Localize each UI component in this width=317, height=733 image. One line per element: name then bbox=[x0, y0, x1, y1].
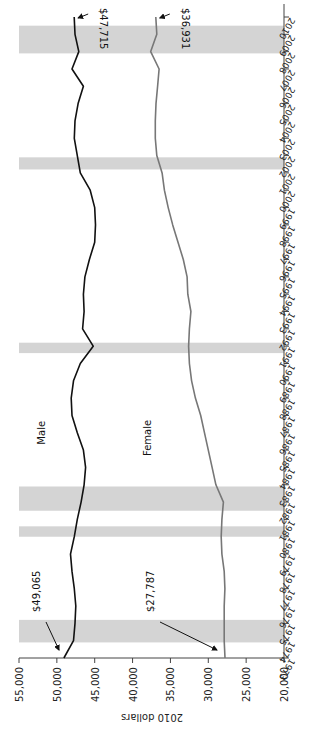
data-lines bbox=[64, 17, 225, 658]
recession-band bbox=[19, 486, 284, 510]
series-line-female bbox=[151, 17, 225, 658]
recession-band bbox=[19, 343, 284, 353]
value-tick-label: 35,000 bbox=[165, 667, 176, 702]
value-annotation: $27,787 bbox=[145, 571, 156, 612]
series-label: Female bbox=[143, 420, 154, 456]
annotation-arrow bbox=[160, 14, 170, 18]
y-axis-title: 2010 dollars bbox=[121, 712, 183, 723]
value-tick-label: 55,000 bbox=[14, 667, 25, 702]
value-annotation: $36,931 bbox=[180, 8, 191, 49]
recession-bands bbox=[19, 26, 284, 643]
income-line-chart: 20,00025,00030,00035,00040,00045,00050,0… bbox=[0, 0, 317, 733]
series-line-male bbox=[64, 17, 96, 658]
value-tick-label: 30,000 bbox=[203, 667, 214, 702]
value-annotation: $47,715 bbox=[98, 8, 109, 49]
value-tick-label: 45,000 bbox=[90, 667, 101, 702]
annotation-arrow bbox=[78, 14, 88, 18]
recession-band bbox=[19, 157, 284, 169]
value-annotation: $49,065 bbox=[31, 571, 42, 612]
recession-band bbox=[19, 620, 284, 643]
value-tick-label: 40,000 bbox=[128, 667, 139, 702]
recession-band bbox=[19, 526, 284, 536]
series-label: Male bbox=[37, 421, 48, 445]
value-tick-label: 25,000 bbox=[241, 667, 252, 702]
value-tick-label: 50,000 bbox=[52, 667, 63, 702]
